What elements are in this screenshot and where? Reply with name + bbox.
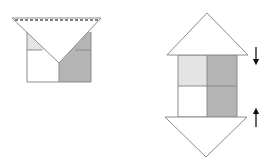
left-folded-square — [12, 18, 101, 82]
top-triangle-flap — [167, 13, 248, 55]
diagram-canvas — [0, 0, 280, 166]
right-cell-top-left — [178, 55, 207, 86]
folding-diagram — [0, 0, 280, 166]
right-square-with-flaps — [165, 13, 256, 157]
bottom-triangle-flap — [165, 117, 247, 157]
right-cell-top-right — [207, 55, 237, 86]
right-cell-bottom-right — [207, 86, 237, 117]
